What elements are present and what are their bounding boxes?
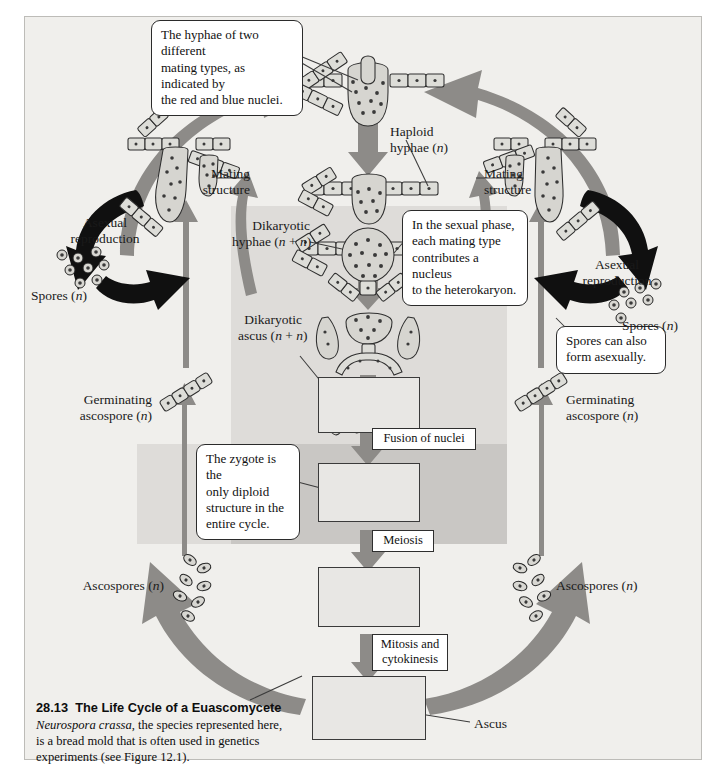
ascus-box [312, 676, 426, 740]
label-asexual-reproduction-left: Asexualreproduction [58, 215, 152, 247]
figure-number: 28.13 [36, 700, 68, 715]
label-germinating-ascospore-right: Germinatingascospore (n) [566, 392, 638, 424]
label-spores-left: Spores (n) [31, 288, 87, 304]
arrow-left-germination [173, 383, 196, 556]
caption-part3: is a bread mold that is often used in ge… [36, 734, 259, 748]
process-label-mitosis: Mitosis andcytokinesis [372, 634, 448, 671]
dikaryotic-ascus-box [318, 377, 420, 433]
label-ascospores-left: Ascospores (n) [64, 578, 164, 594]
label-asexual-reproduction-right: Asexualreproduction [570, 257, 664, 289]
callout-mating-types: The hyphae of two differentmating types,… [151, 20, 303, 116]
species-name: Neurospora crassa [36, 718, 132, 732]
figure-title: The Life Cycle of a Euascomycete [75, 700, 281, 715]
callout-sexual-phase: In the sexual phase,each mating typecont… [402, 210, 528, 306]
label-mating-structure-right: Matingstructure [484, 166, 531, 198]
arrow-top-to-haploid [348, 122, 388, 176]
callout-zygote: The zygote is theonly diploidstructure i… [196, 444, 300, 540]
label-ascospores-right: Ascospores (n) [556, 578, 637, 594]
caption-part2: , the species represented here, [132, 718, 282, 732]
label-dikaryotic-ascus: Dikaryoticascus (n + n) [238, 312, 302, 344]
figure-caption: 28.13 The Life Cycle of a Euascomycete N… [36, 700, 288, 766]
label-dikaryotic-hyphae: Dikaryotichyphae (n + n) [232, 218, 310, 250]
label-haploid-hyphae: Haploidhyphae (n) [390, 124, 448, 156]
label-germinating-ascospore-left: Germinatingascospore (n) [56, 392, 152, 424]
zygote-box [318, 463, 420, 522]
process-label-meiosis: Meiosis [372, 530, 434, 552]
label-ascus: Ascus [474, 716, 507, 732]
figure-page: The hyphae of two differentmating types,… [0, 0, 726, 776]
arrow-right-germination [530, 383, 553, 556]
caption-part4: experiments (see Figure 12.1). [36, 750, 190, 764]
ascospores-right-shapes [512, 552, 552, 623]
label-spores-right: Spores (n) [622, 318, 678, 334]
hyphae-fused-top [292, 52, 444, 126]
leader-ascus [420, 714, 470, 722]
label-mating-structure-left: Matingstructure [178, 166, 250, 198]
meiosis-box [318, 567, 420, 627]
dikaryotic-ascus-group [336, 313, 402, 375]
process-label-fusion: Fusion of nuclei [372, 428, 476, 450]
cycle-arrow-bottom-left [142, 562, 306, 715]
asexual-arrow-left-up [96, 270, 190, 310]
